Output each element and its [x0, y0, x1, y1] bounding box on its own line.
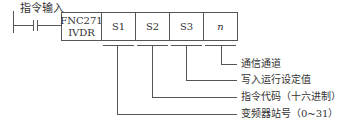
input-label: 指令输入	[20, 3, 64, 15]
desc-s2: 指令代码（十六进制）	[241, 91, 341, 103]
operand-s3: S3	[169, 12, 204, 41]
leader-s3-vertical	[186, 45, 187, 80]
leader-n-vertical	[221, 45, 222, 64]
operand-s2: S2	[135, 12, 170, 41]
instruction-code: FNC271	[60, 15, 102, 27]
operand-s1: S1	[101, 12, 136, 41]
leader-n-horizontal	[221, 64, 237, 65]
left-power-rail	[13, 11, 14, 33]
leader-s2-horizontal	[152, 97, 237, 98]
leader-s2-vertical	[152, 45, 153, 97]
rung-wire-right	[37, 25, 61, 26]
leader-s3-horizontal	[186, 80, 237, 81]
operand-n: n	[203, 12, 238, 41]
leader-s1-horizontal	[117, 114, 237, 115]
instruction-mnemonic: IVDR	[68, 27, 95, 39]
desc-n: 通信通道	[241, 58, 281, 70]
instruction-cell: FNC271 IVDR	[61, 12, 102, 41]
desc-s1: 变频器站号（0~31）	[241, 108, 338, 120]
leader-s1-vertical	[117, 45, 118, 114]
rung-wire-left	[13, 25, 33, 26]
desc-s3: 写入运行设定值	[241, 74, 311, 86]
contact-left-bar	[33, 20, 34, 31]
bracket-s1	[103, 45, 134, 46]
